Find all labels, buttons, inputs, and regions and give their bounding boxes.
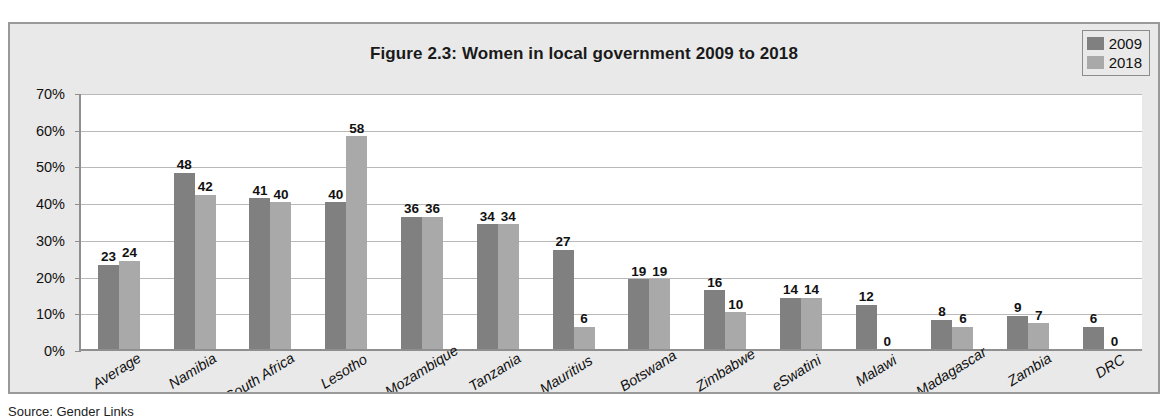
- x-axis-label-cell: Lesotho: [307, 354, 383, 394]
- bar-value-label: 12: [859, 290, 874, 304]
- y-axis-tick-label: 0%: [44, 343, 65, 359]
- bar-value-label: 6: [959, 312, 967, 326]
- bar-2018[interactable]: 6: [952, 327, 973, 349]
- bar-value-label: 9: [1014, 301, 1022, 315]
- bar-2009[interactable]: 12: [856, 305, 877, 349]
- bar-value-label: 19: [652, 265, 667, 279]
- plot-area: 2324484241404058363634342761919161014141…: [79, 94, 1142, 351]
- bar-value-label: 8: [938, 305, 946, 319]
- x-axis-label: Average: [90, 350, 144, 392]
- bar-value-label: 27: [556, 235, 571, 249]
- x-axis-label-cell: eSwatini: [762, 354, 838, 394]
- x-axis-label-cell: Madagascar: [914, 354, 990, 394]
- bar-2018[interactable]: 34: [498, 224, 519, 349]
- x-axis-label: Lesotho: [317, 351, 369, 392]
- x-axis-label-cell: South Africa: [231, 354, 307, 394]
- bar-value-label: 24: [122, 246, 137, 260]
- bar-value-label: 48: [177, 158, 192, 172]
- x-axis-label: Tanzania: [465, 350, 523, 394]
- y-axis-tick-label: 10%: [36, 306, 65, 322]
- x-axis-label: Zimbabwe: [693, 345, 758, 394]
- chart-figure-frame: Figure 2.3: Women in local government 20…: [8, 22, 1160, 394]
- y-axis-tick-label: 60%: [36, 123, 65, 139]
- chart-title: Figure 2.3: Women in local government 20…: [10, 44, 1158, 64]
- bar-2009[interactable]: 16: [704, 290, 725, 349]
- bar-value-label: 36: [404, 202, 419, 216]
- bar-value-label: 42: [198, 180, 213, 194]
- bar-2018[interactable]: 42: [195, 195, 216, 349]
- bar-2009[interactable]: 23: [98, 265, 119, 349]
- x-axis-label-cell: Zambia: [990, 354, 1066, 394]
- bar-value-label: 6: [1090, 312, 1098, 326]
- bar-2009[interactable]: 34: [477, 224, 498, 349]
- bar-2009[interactable]: 14: [780, 298, 801, 349]
- bar-2018[interactable]: 40: [270, 202, 291, 349]
- y-axis-tick-label: 40%: [36, 196, 65, 212]
- bar-group: 97: [990, 94, 1066, 349]
- bar-value-label: 16: [707, 276, 722, 290]
- bar-group: 3636: [384, 94, 460, 349]
- bar-2018[interactable]: 58: [346, 136, 367, 349]
- bar-2009[interactable]: 19: [628, 279, 649, 349]
- legend-item-2009[interactable]: 2009: [1087, 34, 1142, 53]
- legend-label-2009: 2009: [1109, 36, 1142, 51]
- x-axis-label-cell: Botswana: [610, 354, 686, 394]
- bar-2009[interactable]: 41: [249, 198, 270, 349]
- bar-value-label: 14: [783, 283, 798, 297]
- bar-value-label: 7: [1035, 309, 1043, 323]
- legend-label-2018: 2018: [1109, 55, 1142, 70]
- legend-swatch-2018: [1087, 56, 1104, 69]
- bar-group: 1610: [687, 94, 763, 349]
- bar-value-label: 40: [273, 188, 288, 202]
- x-axis-label: Botswana: [617, 347, 679, 394]
- x-axis-label-cell: Tanzania: [459, 354, 535, 394]
- x-axis-label: DRC: [1092, 351, 1127, 381]
- bar-2018[interactable]: 7: [1028, 323, 1049, 349]
- bar-value-label: 34: [501, 210, 516, 224]
- bar-group: 4140: [233, 94, 309, 349]
- bar-2018[interactable]: 6: [574, 327, 595, 349]
- bar-2018[interactable]: 36: [422, 217, 443, 349]
- bar-2009[interactable]: 8: [931, 320, 952, 349]
- bar-2018[interactable]: 24: [119, 261, 140, 349]
- x-axis-label-cell: Zimbabwe: [686, 354, 762, 394]
- x-axis-label: Zambia: [1005, 350, 1054, 389]
- bar-2018[interactable]: 19: [649, 279, 670, 349]
- chart-legend: 2009 2018: [1082, 30, 1150, 76]
- bar-2009[interactable]: 40: [325, 202, 346, 349]
- bar-value-label: 34: [480, 210, 495, 224]
- bar-2009[interactable]: 27: [553, 250, 574, 349]
- bar-value-label: 14: [804, 283, 819, 297]
- x-axis-label: eSwatini: [769, 352, 824, 394]
- bar-2009[interactable]: 9: [1007, 316, 1028, 349]
- y-axis-tick-label: 50%: [36, 159, 65, 175]
- bar-value-label: 23: [101, 250, 116, 264]
- x-axis-label-cell: Mozambique: [383, 354, 459, 394]
- bar-group: 1414: [763, 94, 839, 349]
- bar-2009[interactable]: 6: [1083, 327, 1104, 349]
- source-note: Source: Gender Links: [8, 404, 134, 420]
- bar-value-label: 0: [883, 335, 891, 349]
- x-axis-label: Malawi: [853, 352, 900, 389]
- x-axis-label: South Africa: [222, 350, 297, 394]
- bar-2018[interactable]: 10: [725, 312, 746, 349]
- x-axis-label-cell: DRC: [1066, 354, 1142, 394]
- bar-2009[interactable]: 48: [174, 173, 195, 349]
- bar-group: 276: [536, 94, 612, 349]
- y-axis-tick-label: 30%: [36, 233, 65, 249]
- bar-group: 4058: [308, 94, 384, 349]
- bar-value-label: 6: [580, 312, 588, 326]
- bar-value-label: 0: [1111, 335, 1119, 349]
- bar-2009[interactable]: 36: [401, 217, 422, 349]
- bar-2018[interactable]: 14: [801, 298, 822, 349]
- bar-value-label: 41: [252, 184, 267, 198]
- x-axis-label-cell: Namibia: [155, 354, 231, 394]
- x-axis-label: Madagascar: [913, 344, 989, 394]
- x-axis-label-cell: Average: [79, 354, 155, 394]
- bar-group: 3434: [460, 94, 536, 349]
- bar-group: 120: [839, 94, 915, 349]
- bar-group: 1919: [611, 94, 687, 349]
- bar-value-label: 58: [349, 122, 364, 136]
- legend-item-2018[interactable]: 2018: [1087, 53, 1142, 72]
- bar-group: 86: [915, 94, 991, 349]
